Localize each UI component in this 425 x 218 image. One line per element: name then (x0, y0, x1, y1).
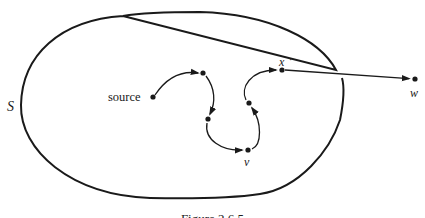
node-n4 (246, 100, 251, 105)
node-v (245, 147, 250, 152)
edge-n2-v (207, 123, 242, 150)
edge-v-n4 (252, 108, 260, 149)
node-label-w: w (410, 87, 418, 99)
node-w (412, 76, 417, 81)
node-n1 (200, 70, 205, 75)
edge-x-w (285, 70, 409, 79)
diagram-figure: S source v x · w Figure 2.6.5 (0, 0, 425, 218)
edge-n1-n2 (206, 76, 214, 114)
node-label-x-mark: · (289, 55, 292, 65)
node-n2 (205, 116, 210, 121)
diagram-canvas (0, 0, 425, 218)
edge-source-n1 (155, 72, 198, 95)
node-label-v: v (244, 156, 249, 168)
node-label-x: x (279, 56, 284, 68)
region-label-s: S (7, 100, 14, 114)
region-s-boundary (21, 12, 343, 198)
figure-caption: Figure 2.6.5 (0, 212, 425, 218)
edge-n4-x (244, 70, 276, 100)
node-label-source: source (108, 91, 141, 104)
node-source (150, 94, 155, 99)
